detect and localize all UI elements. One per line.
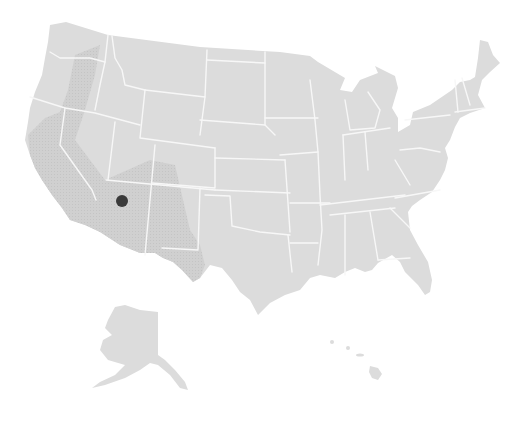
- hawaii-inset: [330, 340, 382, 380]
- alaska-inset: [92, 305, 188, 390]
- us-map: [0, 0, 516, 427]
- location-marker[interactable]: [116, 195, 128, 207]
